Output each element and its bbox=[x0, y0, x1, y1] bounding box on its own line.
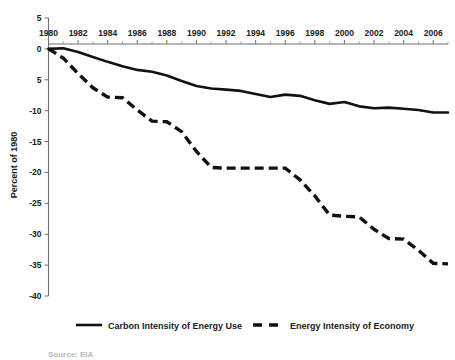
y-axis-tick-label: -25 bbox=[29, 198, 42, 208]
legend-item-label: Carbon Intensity of Energy Use bbox=[108, 321, 242, 331]
y-axis-title: Percent of 1980 bbox=[9, 132, 19, 199]
x-axis-tick-label: 2004 bbox=[394, 28, 413, 38]
y-axis: 505-10-15-20-25-30-35-40 bbox=[29, 13, 48, 301]
line-chart-svg: Percent of 1980 505-10-15-20-25-30-35-40… bbox=[0, 0, 455, 360]
source-note: Source: EIA bbox=[48, 350, 94, 359]
x-axis-tick-label: 1998 bbox=[305, 28, 324, 38]
y-axis-tick-label: -15 bbox=[29, 137, 42, 147]
x-axis-tick-label: 1992 bbox=[217, 28, 236, 38]
y-axis-tick-label: -20 bbox=[29, 167, 42, 177]
x-axis-tick-label: 2002 bbox=[365, 28, 384, 38]
x-axis-tick-label: 2000 bbox=[335, 28, 354, 38]
data-series-group bbox=[49, 48, 449, 264]
y-axis-tick-label: -30 bbox=[29, 229, 42, 239]
y-axis-title-text: Percent of 1980 bbox=[9, 132, 19, 199]
legend-item-label: Energy Intensity of Economy bbox=[290, 321, 414, 331]
x-axis-tick-label: 1984 bbox=[98, 28, 117, 38]
y-axis-tick-label: -40 bbox=[29, 291, 42, 301]
x-axis-tick-label: 1982 bbox=[69, 28, 88, 38]
y-axis-tick-label: 5 bbox=[37, 75, 42, 85]
y-axis-tick-label: 0 bbox=[37, 44, 42, 54]
chart-container: Percent of 1980 505-10-15-20-25-30-35-40… bbox=[0, 0, 455, 360]
chart-legend: Carbon Intensity of Energy UseEnergy Int… bbox=[76, 321, 414, 331]
x-axis-tick-label: 1988 bbox=[157, 28, 176, 38]
x-axis-tick-label: 1990 bbox=[187, 28, 206, 38]
series-line-energy-intensity-of-economy bbox=[49, 49, 449, 264]
x-axis-tick-label: 2006 bbox=[424, 28, 443, 38]
y-axis-tick-label: 5 bbox=[37, 13, 42, 23]
x-axis-tick-label: 1980 bbox=[39, 28, 58, 38]
series-line-carbon-intensity-of-energy-use bbox=[49, 48, 449, 112]
y-axis-tick-label: -10 bbox=[29, 106, 42, 116]
source-note-text: Source: EIA bbox=[48, 350, 94, 359]
x-axis-tick-label: 1996 bbox=[276, 28, 295, 38]
x-axis-tick-label: 1994 bbox=[246, 28, 265, 38]
x-axis: 1980198219841986198819901992199419961998… bbox=[39, 28, 448, 44]
x-axis-tick-label: 1986 bbox=[128, 28, 147, 38]
y-axis-tick-label: -35 bbox=[29, 260, 42, 270]
